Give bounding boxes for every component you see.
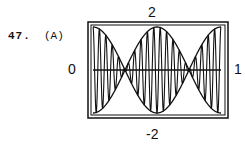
plot-area	[0, 0, 245, 147]
